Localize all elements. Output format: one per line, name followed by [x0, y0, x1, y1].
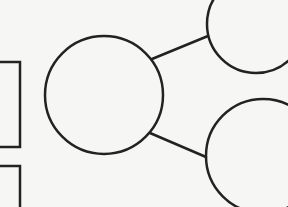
diagram-canvas — [0, 0, 288, 207]
connector-bottom — [150, 133, 206, 157]
connector-top — [152, 36, 208, 59]
diagram-svg — [0, 0, 288, 207]
center-circle — [45, 36, 163, 154]
box-bottom — [0, 166, 20, 207]
bottom-right-circle — [206, 99, 288, 207]
top-right-circle — [207, 0, 288, 73]
box-top — [0, 62, 20, 147]
